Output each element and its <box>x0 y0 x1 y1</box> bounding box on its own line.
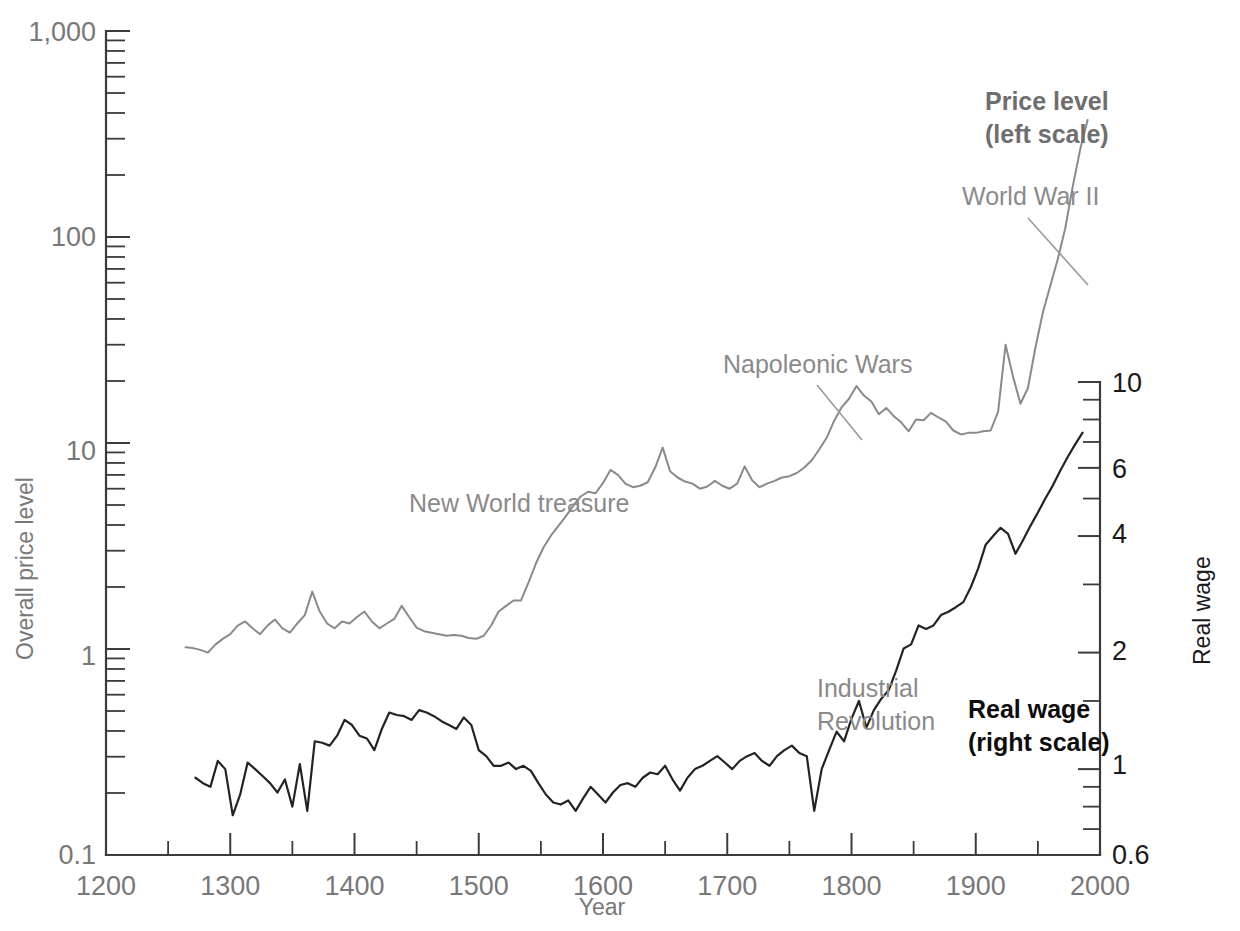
left-axis-ticks <box>106 31 130 855</box>
x-tick-label-1800: 1800 <box>821 871 881 901</box>
right-axis-ticks <box>1078 382 1100 829</box>
annotation-price-level: Price level (left scale) <box>985 87 1109 148</box>
annotation-world-war-2-text: World War II <box>962 182 1100 210</box>
annotation-real-wage: Real wage (right scale) <box>968 695 1110 756</box>
annotation-price-level-line1: Price level <box>985 87 1109 115</box>
x-axis-group: 120013001400150016001700180019002000 Yea… <box>76 833 1130 920</box>
annotation-new-world-treasure-text: New World treasure <box>409 489 629 517</box>
annotation-world-war-2-leader <box>1028 218 1088 285</box>
y-tick-label-0.1: 0.1 <box>58 840 96 870</box>
y-tick-label-10: 10 <box>66 436 96 466</box>
y2-tick-label-4: 4 <box>1112 519 1127 549</box>
y-tick-label-1000: 1,000 <box>28 17 96 47</box>
y-axis-left-title: Overall price level <box>12 477 38 660</box>
annotation-industrial-revolution-line1: Industrial <box>817 674 918 702</box>
x-axis-ticks <box>106 833 1100 855</box>
x-tick-label-1300: 1300 <box>200 871 260 901</box>
annotation-napoleonic-wars-text: Napoleonic Wars <box>723 350 912 378</box>
left-axis-group: 1,000 100 10 1 0.1 Overall price level <box>12 17 130 870</box>
right-axis-group: 10 6 4 2 1 0.6 Real wage <box>1078 368 1215 870</box>
y2-tick-label-6: 6 <box>1112 454 1127 484</box>
series-line-price-level <box>186 120 1088 653</box>
y-axis-right-title: Real wage <box>1189 556 1215 665</box>
annotation-price-level-line2: (left scale) <box>985 120 1109 148</box>
x-tick-label-1400: 1400 <box>324 871 384 901</box>
y2-tick-label-2: 2 <box>1112 636 1127 666</box>
annotation-napoleonic-wars-leader <box>817 385 862 440</box>
chart-canvas: 1,000 100 10 1 0.1 Overall price level 1… <box>0 0 1240 931</box>
annotation-real-wage-line2: (right scale) <box>968 728 1110 756</box>
annotation-industrial-revolution: Industrial Revolution <box>817 674 935 735</box>
annotation-world-war-2: World War II <box>962 182 1100 285</box>
annotation-real-wage-line1: Real wage <box>968 695 1090 723</box>
price-level-real-wage-chart: 1,000 100 10 1 0.1 Overall price level 1… <box>0 0 1240 931</box>
x-tick-label-1900: 1900 <box>946 871 1006 901</box>
y2-tick-label-1: 1 <box>1112 750 1127 780</box>
annotation-napoleonic-wars: Napoleonic Wars <box>723 350 912 440</box>
y2-tick-label-0.6: 0.6 <box>1112 840 1150 870</box>
x-tick-label-1500: 1500 <box>449 871 509 901</box>
x-tick-label-1200: 1200 <box>76 871 136 901</box>
y2-tick-label-10: 10 <box>1112 368 1142 398</box>
x-tick-label-2000: 2000 <box>1070 871 1130 901</box>
x-axis-title: Year <box>579 894 626 920</box>
y-tick-label-1: 1 <box>81 641 96 671</box>
x-tick-label-1700: 1700 <box>697 871 757 901</box>
annotation-new-world-treasure: New World treasure <box>409 489 629 517</box>
annotation-industrial-revolution-line2: Revolution <box>817 707 935 735</box>
y-tick-label-100: 100 <box>51 222 96 252</box>
